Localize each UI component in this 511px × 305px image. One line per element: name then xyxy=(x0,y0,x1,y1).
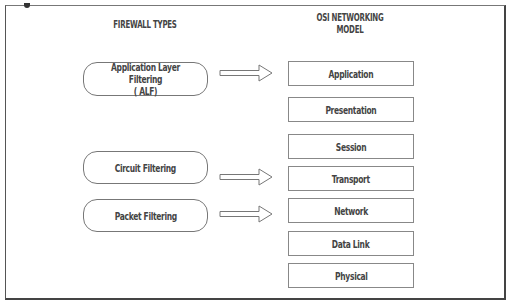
osi-layer-label: Transport xyxy=(332,173,370,185)
diagram-frame xyxy=(5,5,506,300)
firewall-packet-box: Packet Filtering xyxy=(83,199,208,232)
firewall-alf-box: Application Layer Filtering ( ALF) xyxy=(83,62,208,96)
osi-layer-physical: Physical xyxy=(288,263,414,288)
firewall-alf-label: Application Layer Filtering ( ALF) xyxy=(96,61,194,97)
osi-model-heading: OSI NETWORKING MODEL xyxy=(303,12,397,36)
osi-layer-data-link: Data Link xyxy=(288,231,414,256)
hollow-right-arrow-icon xyxy=(219,168,274,186)
firewall-packet-label: Packet Filtering xyxy=(114,210,176,222)
osi-layer-application: Application xyxy=(288,61,414,86)
hollow-right-arrow-icon xyxy=(219,205,274,223)
osi-layer-session: Session xyxy=(288,134,414,159)
osi-layer-label: Session xyxy=(336,141,367,153)
osi-layer-label: Application xyxy=(329,68,374,80)
osi-layer-label: Network xyxy=(334,205,368,217)
firewall-circuit-box: Circuit Filtering xyxy=(83,151,208,184)
firewall-circuit-label: Circuit Filtering xyxy=(115,162,176,174)
hollow-right-arrow-icon xyxy=(219,64,274,82)
osi-layer-label: Physical xyxy=(335,270,368,282)
osi-layer-transport: Transport xyxy=(288,166,414,191)
firewall-types-heading: FIREWALL TYPES xyxy=(94,19,195,31)
osi-layer-label: Presentation xyxy=(325,104,376,116)
figure-label-fragment xyxy=(24,3,30,8)
osi-layer-presentation: Presentation xyxy=(288,97,414,122)
osi-layer-label: Data Link xyxy=(332,238,370,250)
osi-layer-network: Network xyxy=(288,198,414,223)
